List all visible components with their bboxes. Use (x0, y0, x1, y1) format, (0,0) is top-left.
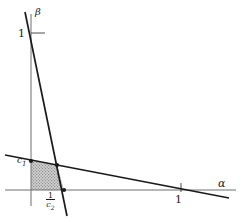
vertex-dot-c1 (29, 159, 33, 163)
fraction-denominator: c2 (46, 200, 55, 212)
x-axis-tick-label-one: 1 (175, 194, 182, 205)
vertex-dot-inv-c2 (62, 188, 66, 192)
fraction-numerator: 1 (46, 192, 55, 199)
plot-canvas (0, 0, 241, 223)
c2-subscript: 2 (51, 204, 55, 211)
c1-intercept-label: c1 (17, 156, 27, 168)
x-axis-label: α (218, 178, 225, 189)
inverse-c2-intercept-label: 1c2 (46, 192, 55, 212)
math-figure: α β 1 1 c1 1c2 (0, 0, 241, 223)
vertex-dot-intersection (55, 163, 59, 167)
c1-subscript: 1 (22, 160, 26, 168)
y-axis-label: β (35, 7, 41, 17)
y-axis-tick-label-one: 1 (18, 28, 25, 39)
